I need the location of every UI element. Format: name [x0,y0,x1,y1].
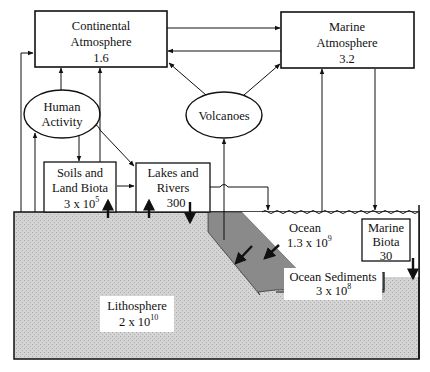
ocean-value: 1.3 x 109 [287,234,332,250]
marine-atmosphere-value: 3.2 [339,52,355,66]
marine-biota-box: Marine Biota 30 [362,219,410,263]
svg-text:Lithosphere: Lithosphere [107,299,167,313]
lithosphere-label: Lithosphere 2 x 1010 [100,296,174,332]
marine-biota-name: Marine [368,221,405,235]
lakes-value: 300 [167,196,186,210]
marine-biota-value: 30 [380,249,393,263]
svg-text:Biota: Biota [372,235,400,249]
human-activity-label: Human [44,100,82,114]
continental-atmosphere-box: Continental Atmosphere 1.6 [35,11,167,67]
volcanoes-ellipse: Volcanoes [186,92,262,138]
svg-text:Rivers: Rivers [157,181,190,195]
soils-name: Soils and [57,166,104,180]
volcanoes-label: Volcanoes [198,109,249,123]
marine-atmosphere-box: Marine Atmosphere 3.2 [281,12,414,68]
soils-land-biota-box: Soils and Land Biota 3 x 105 [44,162,116,212]
soils-value: 3 x 105 [64,195,99,211]
svg-text:Ocean: Ocean [289,221,322,235]
ocean-sediments-value: 3 x 108 [316,282,351,298]
svg-text:Activity: Activity [42,115,84,129]
continental-atmosphere-name: Continental [72,19,131,33]
svg-text:Atmosphere: Atmosphere [316,36,378,50]
continental-atmosphere-value: 1.6 [93,51,109,65]
svg-text:Land Biota: Land Biota [52,181,108,195]
lakes-rivers-box: Lakes and Rivers 300 [136,163,210,212]
svg-text:Ocean Sediments: Ocean Sediments [289,270,376,284]
svg-text:Atmosphere: Atmosphere [70,35,132,49]
marine-atmosphere-name: Marine [329,20,366,34]
ocean-sediments-label: Ocean Sediments 3 x 108 [284,268,382,300]
lakes-name: Lakes and [147,166,199,180]
human-activity-ellipse: Human Activity [24,90,100,138]
atmosphere-exchange-arrows [167,28,281,51]
mercury-cycle-diagram: Continental Atmosphere 1.6 Marine Atmosp… [0,0,430,372]
